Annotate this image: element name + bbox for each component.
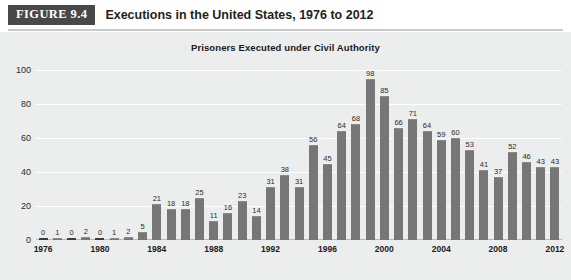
bar[interactable] — [167, 209, 176, 240]
bar[interactable] — [223, 213, 232, 240]
bar-slot: 59 — [434, 70, 448, 240]
bar-slot: 38 — [278, 70, 292, 240]
bar[interactable] — [366, 79, 375, 240]
bar[interactable] — [337, 131, 346, 240]
bar-slot: 2 — [79, 70, 93, 240]
bar-slot: 68 — [349, 70, 363, 240]
bar-value-label: 18 — [181, 200, 189, 208]
bar[interactable] — [252, 216, 261, 240]
bar-slot: 0 — [36, 70, 50, 240]
bar-value-label: 11 — [210, 212, 218, 220]
bar[interactable] — [536, 167, 545, 240]
bar-value-label: 2 — [84, 228, 88, 236]
bar-slot: 21 — [150, 70, 164, 240]
bar-value-label: 66 — [394, 119, 402, 127]
bar[interactable] — [437, 140, 446, 240]
bar-value-label: 64 — [338, 122, 346, 130]
bar[interactable] — [423, 131, 432, 240]
bar-value-label: 64 — [423, 122, 431, 130]
bar-slot: 43 — [534, 70, 548, 240]
bar[interactable] — [67, 238, 76, 240]
bar-slot: 85 — [377, 70, 391, 240]
bar-value-label: 45 — [323, 155, 331, 163]
bar-value-label: 43 — [551, 158, 559, 166]
bar-value-label: 23 — [238, 192, 246, 200]
x-tick-label: 1984 — [147, 244, 166, 254]
bar[interactable] — [124, 237, 133, 240]
bar[interactable] — [479, 170, 488, 240]
bar-slot: 1 — [50, 70, 64, 240]
y-tick-label: 100 — [16, 65, 31, 75]
bar[interactable] — [266, 187, 275, 240]
bar-slot: 46 — [519, 70, 533, 240]
bar-value-label: 2 — [126, 228, 130, 236]
bar[interactable] — [394, 128, 403, 240]
bar[interactable] — [522, 162, 531, 240]
bar[interactable] — [238, 201, 247, 240]
chart-title: Prisoners Executed under Civil Authority — [0, 42, 571, 53]
bar[interactable] — [295, 187, 304, 240]
bar-slot: 43 — [548, 70, 562, 240]
bar[interactable] — [181, 209, 190, 240]
bar[interactable] — [380, 96, 389, 241]
bar-slot: 66 — [391, 70, 405, 240]
bar[interactable] — [195, 198, 204, 241]
bar-value-label: 0 — [98, 229, 102, 237]
bar-value-label: 16 — [224, 204, 232, 212]
bar-slot: 98 — [363, 70, 377, 240]
bar[interactable] — [451, 138, 460, 240]
bar-slot: 2 — [121, 70, 135, 240]
bar-slot: 25 — [192, 70, 206, 240]
bar[interactable] — [152, 204, 161, 240]
bar[interactable] — [323, 164, 332, 241]
bar-slot: 23 — [235, 70, 249, 240]
bar-slot: 18 — [164, 70, 178, 240]
y-tick-label: 40 — [21, 167, 31, 177]
bar-slot: 0 — [64, 70, 78, 240]
bar[interactable] — [494, 177, 503, 240]
bar-series: 0102012521181825111623143138315645646898… — [36, 70, 562, 240]
bar-slot: 31 — [264, 70, 278, 240]
figure-caption: Executions in the United States, 1976 to… — [105, 8, 373, 22]
x-tick-label: 1996 — [318, 244, 337, 254]
bar[interactable] — [280, 175, 289, 240]
figure-container: FIGURE 9.4 Executions in the United Stat… — [0, 0, 571, 280]
bar-slot: 60 — [448, 70, 462, 240]
x-tick-label: 1992 — [261, 244, 280, 254]
bar[interactable] — [95, 238, 104, 240]
x-tick-label: 1988 — [204, 244, 223, 254]
bar-value-label: 68 — [352, 115, 360, 123]
bar-slot: 53 — [463, 70, 477, 240]
bar-value-label: 38 — [281, 166, 289, 174]
header-divider — [8, 29, 563, 31]
bar[interactable] — [408, 119, 417, 240]
chart-panel: Prisoners Executed under Civil Authority… — [0, 32, 571, 280]
bar[interactable] — [309, 145, 318, 240]
bar-value-label: 1 — [55, 229, 59, 237]
bar[interactable] — [351, 124, 360, 240]
bar[interactable] — [110, 238, 119, 240]
bar-slot: 16 — [221, 70, 235, 240]
bar-value-label: 85 — [380, 87, 388, 95]
bar-value-label: 14 — [252, 207, 260, 215]
bar[interactable] — [138, 232, 147, 241]
bar[interactable] — [465, 150, 474, 240]
bar[interactable] — [550, 167, 559, 240]
bar[interactable] — [39, 238, 48, 240]
bar-value-label: 60 — [451, 129, 459, 137]
bar[interactable] — [508, 152, 517, 240]
bar-slot: 71 — [406, 70, 420, 240]
bar[interactable] — [209, 221, 218, 240]
bar-value-label: 59 — [437, 131, 445, 139]
bar-value-label: 0 — [41, 229, 45, 237]
bar-value-label: 71 — [409, 110, 417, 118]
bar-slot: 52 — [505, 70, 519, 240]
y-tick-label: 20 — [21, 201, 31, 211]
y-tick-label: 80 — [21, 99, 31, 109]
bar-value-label: 25 — [195, 189, 203, 197]
bar-value-label: 43 — [537, 158, 545, 166]
bar[interactable] — [81, 237, 90, 240]
bar[interactable] — [53, 238, 62, 240]
y-tick-label: 60 — [21, 133, 31, 143]
figure-number-badge: FIGURE 9.4 — [8, 5, 95, 25]
